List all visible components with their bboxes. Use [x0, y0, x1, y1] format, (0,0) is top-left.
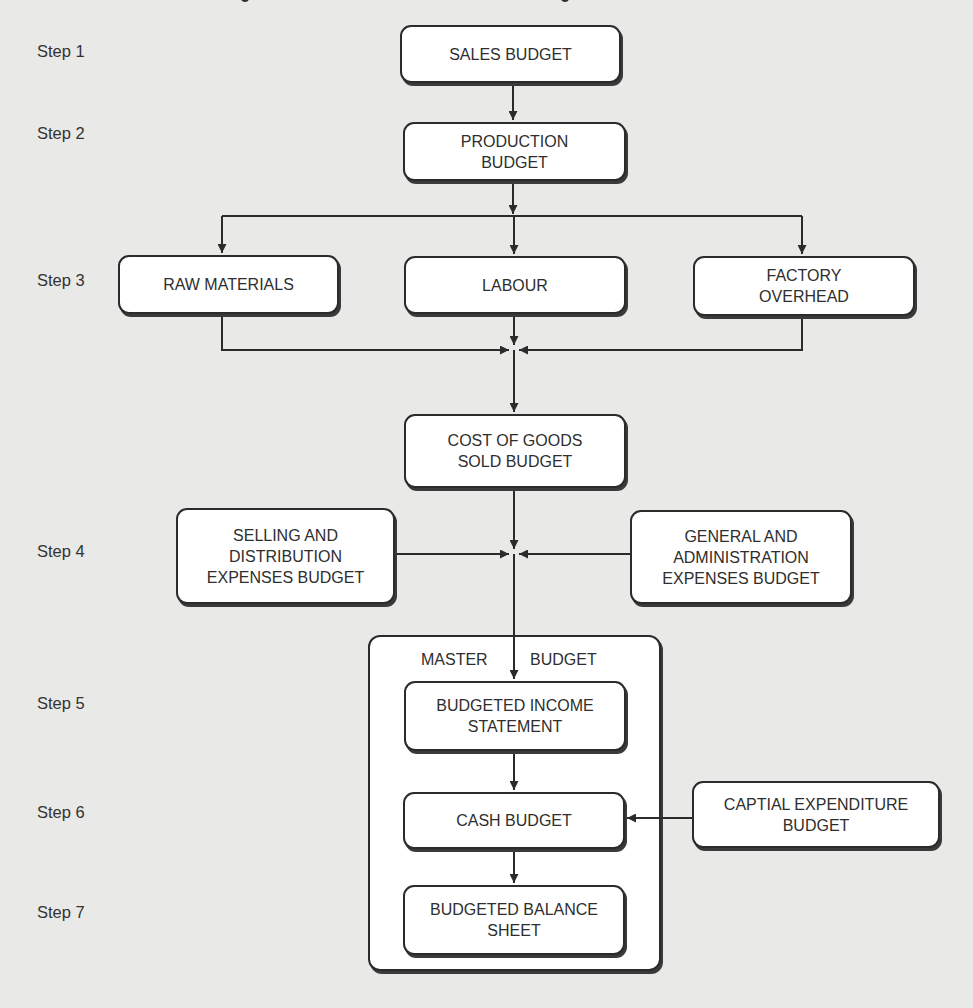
arrow-factory-overhead-to-merge: [519, 316, 802, 350]
node-general-administration-expenses-budget: GENERAL AND ADMINISTRATION EXPENSES BUDG…: [630, 510, 852, 604]
node-production-budget: PRODUCTION BUDGET: [403, 122, 626, 181]
arrow-raw-materials-to-merge: [222, 314, 509, 350]
node-budgeted-balance-sheet: BUDGETED BALANCE SHEET: [403, 885, 625, 955]
node-cost-of-goods-sold-budget: COST OF GOODS SOLD BUDGET: [404, 414, 626, 488]
node-capital-expenditure-budget: CAPTIAL EXPENDITURE BUDGET: [692, 781, 940, 848]
node-selling-distribution-expenses-budget: SELLING AND DISTRIBUTION EXPENSES BUDGET: [176, 508, 395, 604]
node-labour: LABOUR: [404, 256, 626, 314]
node-cash-budget: CASH BUDGET: [403, 792, 625, 849]
node-raw-materials: RAW MATERIALS: [118, 255, 339, 314]
node-factory-overhead: FACTORY OVERHEAD: [693, 256, 915, 316]
node-sales-budget: SALES BUDGET: [400, 25, 621, 83]
budget-flowchart: Step 1 Step 2 Step 3 Step 4 Step 5 Step …: [0, 0, 973, 1008]
node-budgeted-income-statement: BUDGETED INCOME STATEMENT: [404, 681, 626, 751]
